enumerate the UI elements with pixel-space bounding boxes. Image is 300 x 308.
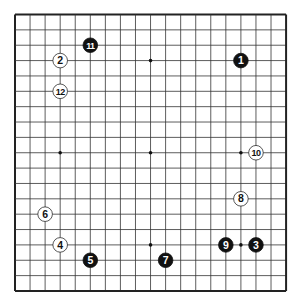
stone-black-11: 11 xyxy=(83,38,98,53)
move-number: 5 xyxy=(87,254,93,266)
star-point xyxy=(149,151,153,155)
move-number: 1 xyxy=(238,54,244,66)
stone-white-12: 12 xyxy=(53,84,68,99)
move-number: 4 xyxy=(57,239,63,251)
stone-white-2: 2 xyxy=(53,53,68,68)
move-number: 12 xyxy=(56,87,65,97)
move-number: 8 xyxy=(238,192,244,204)
go-board: 123456789101112 xyxy=(0,0,300,308)
stone-black-7: 7 xyxy=(158,253,173,268)
move-number: 2 xyxy=(57,54,63,66)
stone-white-8: 8 xyxy=(234,192,249,207)
stone-black-1: 1 xyxy=(234,53,249,68)
move-number: 11 xyxy=(86,41,95,51)
star-point xyxy=(149,243,153,247)
stone-white-10: 10 xyxy=(249,145,264,160)
stone-black-5: 5 xyxy=(83,253,98,268)
move-number: 3 xyxy=(253,239,259,251)
move-number: 9 xyxy=(223,239,229,251)
star-point xyxy=(239,243,243,247)
stone-white-6: 6 xyxy=(38,207,53,222)
star-point xyxy=(149,59,153,63)
stone-white-4: 4 xyxy=(53,238,68,253)
star-point xyxy=(239,151,243,155)
stone-black-3: 3 xyxy=(249,238,264,253)
move-number: 10 xyxy=(252,148,261,158)
move-number: 6 xyxy=(42,208,48,220)
star-point xyxy=(58,151,62,155)
move-number: 7 xyxy=(163,254,169,266)
stone-black-9: 9 xyxy=(219,238,234,253)
